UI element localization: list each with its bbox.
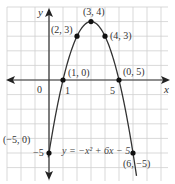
point-label: (2, 3) [51, 24, 73, 36]
data-point [130, 150, 135, 155]
y-axis-label: y [37, 6, 43, 18]
tick-label-neg5: −5 [33, 147, 44, 158]
tick-label-5: 5 [110, 85, 115, 96]
x-axis-label: x [163, 83, 169, 95]
point-label: (−5, 0) [3, 134, 30, 146]
data-point [60, 77, 65, 82]
point-label: (4, 3) [110, 30, 132, 42]
point-label: (6, −5) [123, 158, 150, 170]
parabola-chart: y x 0 1 5 −5 (−5, 0)(1, 0)(2, 3)(3, 4)(4… [0, 0, 175, 184]
data-point [74, 34, 79, 39]
tick-label-1: 1 [65, 85, 70, 96]
point-label: (0, 5) [123, 66, 145, 78]
data-point [88, 19, 93, 24]
point-label: (3, 4) [83, 6, 105, 18]
point-label: (1, 0) [68, 67, 90, 79]
data-point [116, 77, 121, 82]
data-point [46, 150, 51, 155]
equation-label: y = −x² + 6x − 5 [61, 145, 130, 156]
data-point [102, 34, 107, 39]
origin-label: 0 [37, 84, 42, 95]
